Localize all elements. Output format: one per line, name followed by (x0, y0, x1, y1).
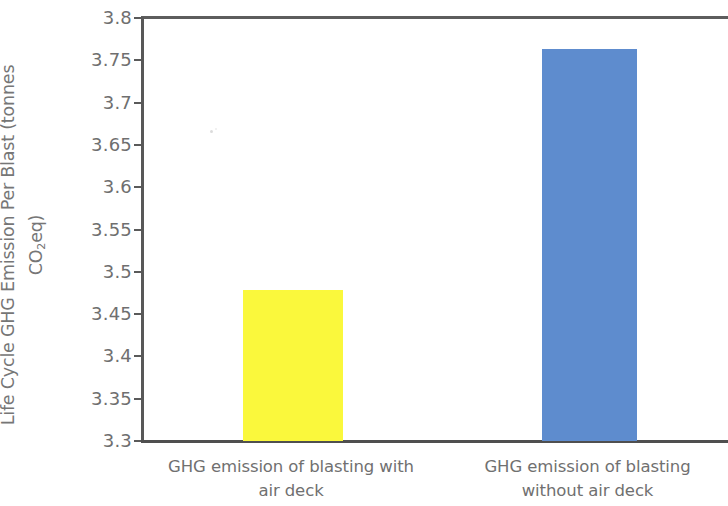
y-axis-title-line-1: Life Cycle GHG Emission Per Blast (tonne… (0, 30, 22, 460)
x-axis-line (141, 440, 728, 443)
y-axis-tick-label: 3.3 (54, 432, 132, 450)
y-axis-tick-label: 3.65 (54, 136, 132, 154)
x-axis-category-label-air-deck: GHG emission of blasting withair deck (141, 455, 441, 503)
y-axis-tick-label: 3.5 (54, 263, 132, 281)
x-axis-category-label-without-air-deck: GHG emission of blastingwithout air deck (447, 455, 728, 503)
x-axis-category-label-line: GHG emission of blasting with (141, 455, 441, 479)
plot-frame-top-border (141, 16, 728, 19)
x-axis-category-label-line: GHG emission of blasting (447, 455, 728, 479)
y-axis-tick-label: 3.7 (54, 94, 132, 112)
scan-artifact-speck (210, 130, 213, 133)
y-axis-tick-labels: 3.83.753.73.653.63.553.53.453.43.353.3 (54, 0, 132, 506)
y-axis-title-co: CO (26, 250, 46, 276)
x-axis-category-label-line: without air deck (447, 479, 728, 503)
y-axis-title-line-2: CO2eq) (22, 30, 53, 460)
y-axis-title-eq: eq) (26, 215, 46, 243)
y-axis-tick-label: 3.4 (54, 347, 132, 365)
bar-chart: Life Cycle GHG Emission Per Blast (tonne… (0, 0, 728, 506)
y-axis-tick-label: 3.45 (54, 305, 132, 323)
y-axis-line (141, 17, 144, 442)
y-axis-tick-label: 3.6 (54, 178, 132, 196)
bar-without-air-deck (542, 49, 637, 441)
bar-air-deck (243, 290, 343, 441)
y-axis-title-subscript: 2 (35, 243, 48, 250)
y-axis-tick-label: 3.35 (54, 390, 132, 408)
x-axis-category-label-line: air deck (141, 479, 441, 503)
y-axis-tick-label: 3.55 (54, 221, 132, 239)
y-axis-title: Life Cycle GHG Emission Per Blast (tonne… (0, 30, 54, 460)
scan-artifact-speck (215, 128, 217, 130)
y-axis-tick-label: 3.75 (54, 51, 132, 69)
y-axis-tick-label: 3.8 (54, 9, 132, 27)
